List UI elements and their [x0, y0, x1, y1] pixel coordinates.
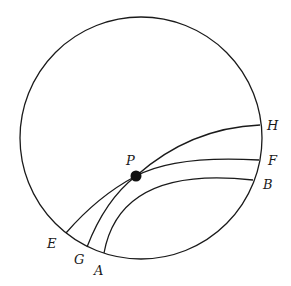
boundary-circle: [20, 17, 262, 259]
arc-A-B: [104, 178, 253, 253]
label-F: F: [267, 153, 278, 168]
circle-diagram: H F B P E G A: [0, 0, 291, 286]
label-B: B: [262, 177, 273, 192]
point-P-dot: [131, 171, 142, 182]
arc-E-H: [66, 125, 260, 233]
label-A: A: [93, 263, 103, 278]
arc-G-F: [87, 159, 259, 247]
label-H: H: [266, 118, 279, 133]
label-G: G: [74, 252, 84, 267]
label-P: P: [125, 153, 135, 168]
label-E: E: [46, 236, 57, 251]
